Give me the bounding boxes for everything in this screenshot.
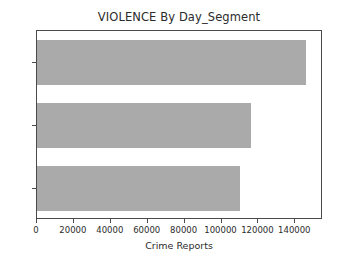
bar (37, 40, 306, 85)
y-tick-mark (32, 125, 36, 126)
x-tick-mark (110, 219, 111, 223)
y-tick-mark (32, 188, 36, 189)
chart-title: VIOLENCE By Day_Segment (36, 10, 322, 24)
plot-area (36, 30, 322, 219)
x-axis-label: Crime Reports (36, 240, 322, 251)
x-tick-mark (257, 219, 258, 223)
x-tick-mark (294, 219, 295, 223)
bar-chart-figure: VIOLENCE By Day_Segment AMAFTNIT 0200004… (0, 0, 337, 265)
bar (37, 103, 251, 148)
y-tick-mark (32, 62, 36, 63)
bars-layer (37, 31, 321, 218)
x-tick-label: 140000 (264, 225, 324, 235)
x-tick-mark (184, 219, 185, 223)
x-tick-mark (221, 219, 222, 223)
x-tick-mark (36, 219, 37, 223)
bar (37, 166, 240, 211)
x-tick-mark (147, 219, 148, 223)
x-tick-mark (73, 219, 74, 223)
